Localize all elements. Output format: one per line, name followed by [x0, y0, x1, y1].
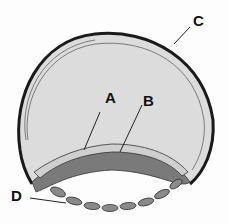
- diagram-canvas: A B C D: [0, 0, 229, 224]
- label-a: A: [105, 90, 116, 105]
- bottom-cell-chain: [49, 177, 184, 211]
- embryo-illustration: [0, 0, 229, 224]
- leader-line-d: [30, 198, 66, 203]
- label-c: C: [193, 13, 204, 28]
- leader-line-c: [174, 27, 190, 44]
- label-d: D: [11, 188, 22, 203]
- label-b: B: [143, 93, 154, 108]
